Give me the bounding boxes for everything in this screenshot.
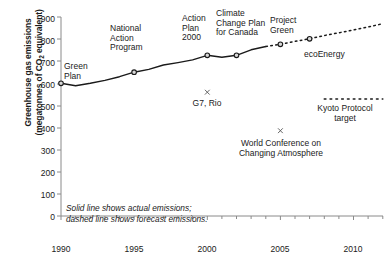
annotation-climate-change-plan-line3: for Canada bbox=[216, 28, 265, 38]
event-markers bbox=[205, 90, 283, 133]
annotation-project-green: Project Green bbox=[270, 16, 296, 35]
data-point-2000 bbox=[205, 53, 210, 58]
annotation-world-conference-line2: Changing Atmosphere bbox=[206, 149, 356, 159]
chart-caption-line1: Solid line shows actual emissions; bbox=[66, 203, 208, 214]
annotation-ecoenergy: ecoEnergy bbox=[304, 50, 345, 60]
annotation-action-plan-2000-line3: 2000 bbox=[182, 33, 206, 43]
chart-caption: Solid line shows actual emissions; dashe… bbox=[66, 203, 208, 224]
data-point-2007 bbox=[307, 37, 312, 42]
annotation-world-conference: World Conference on Changing Atmosphere bbox=[206, 139, 356, 158]
y-axis-ticks bbox=[57, 17, 61, 216]
actual-emissions-line bbox=[61, 47, 266, 86]
data-point-2002 bbox=[234, 53, 239, 58]
annotation-kyoto-line2: target bbox=[306, 114, 384, 124]
annotation-green-plan: Green Plan bbox=[64, 62, 88, 81]
annotation-climate-change-plan: Climate Change Plan for Canada bbox=[216, 9, 265, 38]
annotation-national-action-program-line3: Program bbox=[110, 43, 143, 53]
chart-caption-line2: dashed line shows forecast emissions. bbox=[66, 214, 208, 225]
annotation-kyoto-protocol-target: Kyoto Protocol target bbox=[306, 104, 384, 123]
data-point-2005 bbox=[278, 42, 283, 47]
annotation-g7-rio: G7, Rio bbox=[177, 99, 237, 109]
data-point-1995 bbox=[132, 70, 137, 75]
data-point-1990 bbox=[59, 81, 64, 86]
emissions-chart: Greenhouse gas emissions (megatonnes of … bbox=[0, 0, 389, 277]
annotation-project-green-line2: Green bbox=[270, 26, 296, 36]
annotation-national-action-program: National Action Program bbox=[110, 24, 143, 53]
annotation-green-plan-line2: Plan bbox=[64, 72, 88, 82]
annotation-ecoenergy-line1: ecoEnergy bbox=[304, 50, 345, 60]
annotation-g7-rio-line1: G7, Rio bbox=[177, 99, 237, 109]
annotation-action-plan-2000: Action Plan 2000 bbox=[182, 14, 206, 43]
